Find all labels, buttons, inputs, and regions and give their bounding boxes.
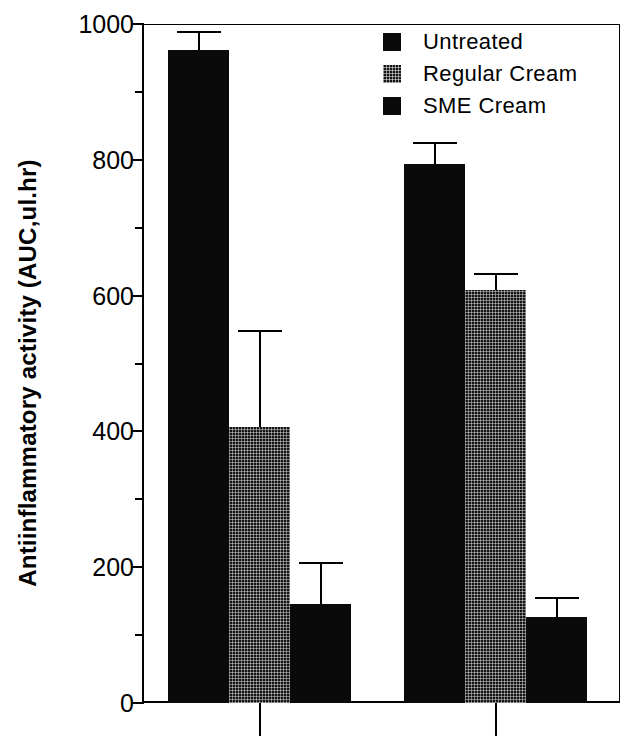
error-bar-stem [198,31,200,50]
legend-item-label: Untreated [423,29,523,55]
legend-swatch-icon [383,33,401,51]
legend-item-label: Regular Cream [423,61,577,87]
error-bar-cap [238,330,282,332]
error-bar-stem [434,142,436,164]
y-tick-minor [135,363,144,365]
bar-regular-cream-group2 [465,290,526,703]
plot-frame-right [619,24,620,703]
y-tick-minor [135,227,144,229]
bar-sme-cream-group1 [290,604,351,703]
error-bar-stem [320,562,322,604]
y-tick-label-200: 200 [46,555,134,580]
bar-untreated-group1 [168,50,229,703]
legend-item-regular-cream[interactable]: Regular Cream [383,58,618,90]
y-tick-major [131,702,144,704]
y-tick-major [131,566,144,568]
y-tick-major [131,430,144,432]
bar-untreated-group2 [404,164,465,703]
bar-chart-figure: Antiinflammatory activity (AUC,ul.hr) 02… [0,0,633,746]
plot-area [142,24,620,703]
y-tick-label-400: 400 [46,419,134,444]
legend-swatch-icon [383,97,401,115]
y-tick-label-0: 0 [46,691,134,716]
y-tick-minor [135,498,144,500]
bar-regular-cream-group1 [229,427,290,703]
error-bar-cap [299,562,343,564]
plot-frame-top [142,24,620,25]
x-tick-group1 [259,703,261,736]
y-tick-minor [135,91,144,93]
y-tick-major [131,295,144,297]
legend-item-untreated[interactable]: Untreated [383,26,618,58]
y-axis-tick-labels: 02004006008001000 [46,0,134,746]
y-tick-major [131,159,144,161]
error-bar-stem [495,273,497,290]
chart-legend: UntreatedRegular CreamSME Cream [383,26,618,122]
bar-sme-cream-group2 [526,617,587,703]
x-tick-group2 [495,703,497,736]
y-tick-minor [135,634,144,636]
error-bar-stem [259,330,261,427]
legend-swatch-icon [383,65,401,83]
legend-item-sme-cream[interactable]: SME Cream [383,90,618,122]
error-bar-cap [177,31,221,33]
y-tick-label-1000: 1000 [46,12,134,37]
legend-item-label: SME Cream [423,93,546,119]
y-tick-label-600: 600 [46,283,134,308]
error-bar-cap [535,597,579,599]
error-bar-stem [556,597,558,617]
y-tick-label-800: 800 [46,147,134,172]
error-bar-cap [413,142,457,144]
y-tick-major [131,23,144,25]
error-bar-cap [474,273,518,275]
